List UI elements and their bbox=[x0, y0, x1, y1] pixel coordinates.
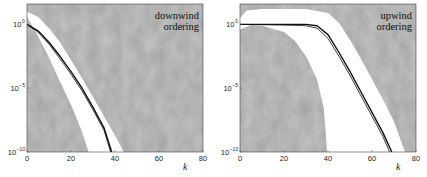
y-tick-label: 10 bbox=[223, 84, 231, 93]
x-tick-label: 0 bbox=[25, 154, 29, 163]
x-axis-label-left: k bbox=[183, 161, 188, 172]
y-tick-exponent: −10 bbox=[230, 146, 239, 152]
y-tick-label: 10 bbox=[221, 148, 229, 157]
y-tick-exponent: −10 bbox=[17, 146, 26, 152]
y-tick-exponent: 0 bbox=[22, 18, 25, 24]
y-tick-label: 10 bbox=[226, 20, 234, 29]
x-tick-label: 0 bbox=[238, 154, 242, 163]
annotation-downwind-line2: ordering bbox=[163, 21, 199, 32]
y-tick-exponent: −5 bbox=[19, 82, 25, 88]
x-tick-label: 20 bbox=[67, 154, 75, 163]
y-tick-label: 10 bbox=[13, 20, 21, 29]
x-tick-label: 40 bbox=[324, 154, 332, 163]
x-tick-label: 80 bbox=[199, 154, 207, 163]
y-tick-label: 10 bbox=[10, 84, 18, 93]
annotation-upwind-line1: upwind bbox=[381, 10, 413, 21]
annotation-upwind-line2: ordering bbox=[376, 21, 412, 32]
x-tick-label: 20 bbox=[280, 154, 288, 163]
y-tick-exponent: 0 bbox=[235, 18, 238, 24]
x-tick-label: 40 bbox=[111, 154, 119, 163]
annotation-downwind-line1: downwind bbox=[155, 10, 200, 21]
y-tick-exponent: −5 bbox=[232, 82, 238, 88]
y-tick-label: 10 bbox=[8, 148, 16, 157]
x-tick-label: 60 bbox=[368, 154, 376, 163]
x-tick-label: 80 bbox=[412, 154, 420, 163]
x-axis-label-right: k bbox=[396, 161, 401, 172]
figure: 02040608010010−510−10 02040608010010−510… bbox=[0, 0, 427, 177]
x-tick-label: 60 bbox=[155, 154, 163, 163]
